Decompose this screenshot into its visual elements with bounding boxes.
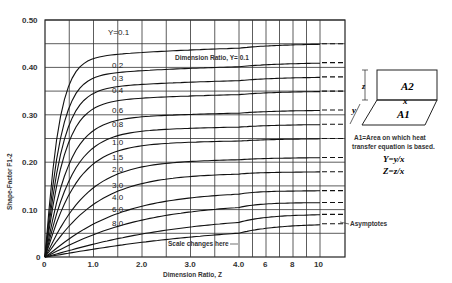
a2-label: A2 <box>400 80 414 92</box>
x-tick: 3.0 <box>185 260 197 269</box>
x-tick: 1.0 <box>88 260 100 269</box>
curve-label: 0.8 <box>112 120 124 129</box>
asymptotes-label: Asymptotes <box>350 220 388 228</box>
y-axis-label: Shape-Factor F1-2 <box>6 153 14 210</box>
y-tick: 0.50 <box>22 16 38 25</box>
curve-label: 1.0 <box>112 138 124 147</box>
curve-y-0.1 <box>45 44 320 257</box>
curve-y-0.4 <box>45 92 320 257</box>
curve-label: 2.0 <box>112 165 124 174</box>
curve-y-3.0 <box>45 191 320 257</box>
x-label: x <box>402 96 408 106</box>
geometry-diagram: A2 x A1 z y A1=Area on which heat transf… <box>350 70 437 176</box>
curve-y-0.3 <box>45 77 320 257</box>
x-tick: 10 <box>314 260 323 269</box>
curve-label: 8.0 <box>112 219 124 228</box>
curve-label: 0.4 <box>112 86 124 95</box>
x-tick: 6 <box>263 260 268 269</box>
y-tick: 0.20 <box>22 158 38 167</box>
x-tick: 8 <box>290 260 295 269</box>
a1-label: A1 <box>396 108 410 120</box>
curve-label: 1.5 <box>112 153 124 162</box>
shape-factor-chart: 01.02.03.04.0681000.100.200.300.400.50 Y… <box>0 0 452 283</box>
y-tick: 0.10 <box>22 206 38 215</box>
curve-label: 0.3 <box>112 74 124 83</box>
eq-y: Y=y/x <box>383 154 405 164</box>
curve-label: 4.0 <box>112 193 124 202</box>
note-line1: A1=Area on which heat <box>354 134 427 141</box>
curve-label: 3.0 <box>112 181 124 190</box>
curve-y-0.6 <box>45 111 320 258</box>
x-axis-label: Dimension Ratio, Z <box>163 271 222 279</box>
x-tick: 2.0 <box>136 260 148 269</box>
curve-label: 0.6 <box>112 106 124 115</box>
x-tick: 4.0 <box>233 260 245 269</box>
y-tick: 0.40 <box>22 63 38 72</box>
curves <box>45 44 345 257</box>
curve-label: Y=0.1 <box>108 28 130 37</box>
eq-z: Z=z/x <box>382 166 405 176</box>
scale-change-note: Scale changes here <box>168 240 229 248</box>
note-line2: transfer equation is based. <box>352 143 435 151</box>
x-tick: 0 <box>42 260 47 269</box>
curve-label: 6.0 <box>112 205 124 214</box>
y-tick: 0 <box>36 253 41 262</box>
curve-labels: Y=0.10.20.30.40.60.81.01.52.03.04.06.08.… <box>108 28 130 228</box>
curve-y-4.0 <box>45 203 320 257</box>
curve-label: 0.2 <box>112 61 124 70</box>
in-plot-label: Dimension Ratio, Y= 0.1 <box>175 54 249 62</box>
y-label: y <box>351 105 357 115</box>
y-tick: 0.30 <box>22 111 38 120</box>
